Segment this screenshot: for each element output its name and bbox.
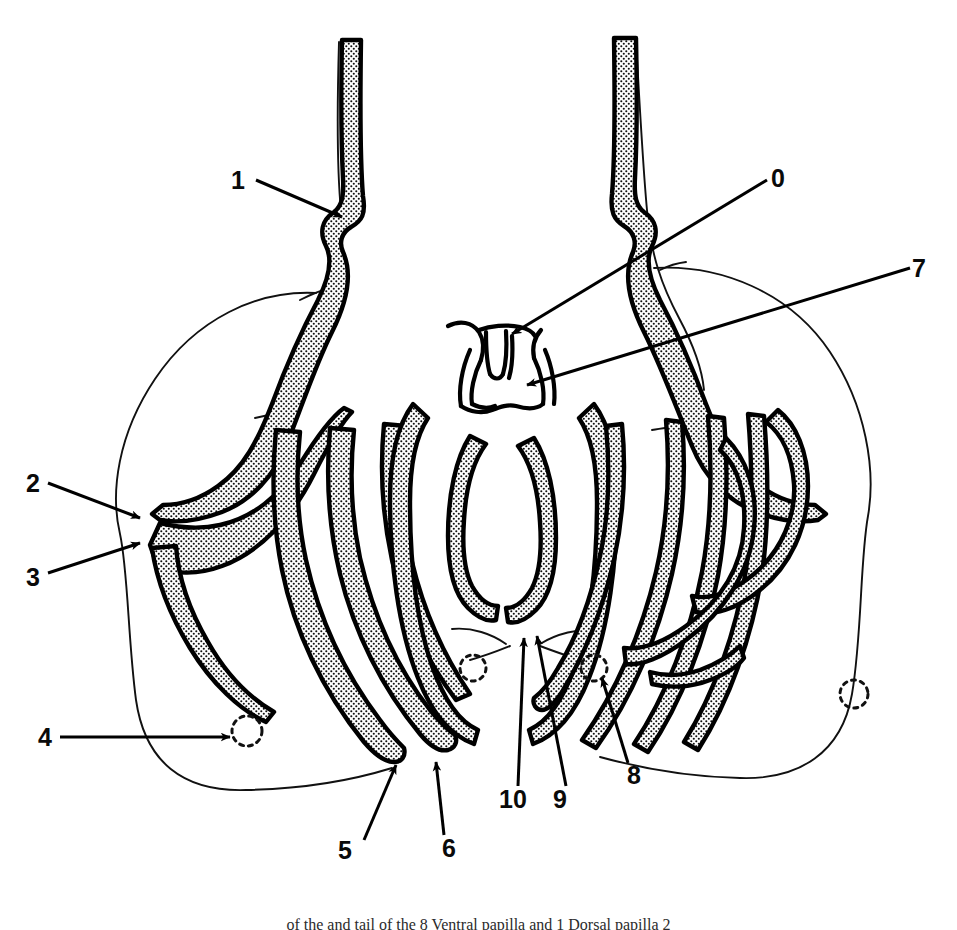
leader-1 — [256, 180, 342, 217]
right-median-inner-tube — [506, 438, 556, 623]
papilla-inner-left — [486, 332, 490, 374]
callout-label-0: 0 — [771, 166, 785, 191]
leader-10 — [518, 638, 524, 786]
leader-5 — [364, 765, 396, 840]
left-descending-arm — [152, 546, 274, 722]
papilla-body-outer-left — [460, 350, 470, 406]
leader-6 — [436, 762, 444, 835]
marker-circle-left — [232, 716, 262, 746]
callout-label-4: 4 — [38, 725, 52, 750]
callout-label-8: 8 — [627, 763, 641, 788]
figure-container: 0 1 2 3 4 5 6 7 8 9 10 of the and tail o… — [0, 0, 957, 930]
central-papilla-body — [448, 323, 555, 412]
left-median-inner-tube — [448, 436, 498, 621]
callout-label-2: 2 — [26, 471, 40, 496]
papilla-floor-outer — [472, 404, 495, 408]
outline-layer — [48, 38, 910, 840]
papilla-stalk — [509, 336, 512, 378]
leader-3 — [48, 543, 140, 573]
right-lobe-envelope — [600, 268, 871, 778]
callout-label-1: 1 — [231, 168, 245, 193]
leader-7 — [527, 268, 910, 385]
median-floor-left — [452, 629, 506, 644]
papilla-body-left — [471, 360, 481, 404]
figure-caption: of the and tail of the 8 Ventral papilla… — [0, 914, 957, 930]
callout-label-9: 9 — [553, 787, 567, 812]
papilla-inner-tip — [490, 374, 503, 379]
anatomical-diagram-svg — [0, 0, 957, 930]
papilla-left-wing — [448, 323, 483, 360]
leader-2 — [48, 483, 140, 518]
papilla-inner-right — [503, 331, 506, 374]
callout-label-7: 7 — [912, 256, 926, 281]
callout-label-6: 6 — [442, 836, 456, 861]
callout-label-3: 3 — [26, 565, 40, 590]
median-floor-lower-left — [470, 646, 510, 660]
callout-label-5: 5 — [338, 838, 352, 863]
callout-label-10: 10 — [499, 787, 527, 812]
